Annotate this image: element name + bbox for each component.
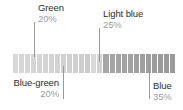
callout-blue-green-label: Blue-green xyxy=(4,78,59,89)
callout-blue-percent: 35% xyxy=(153,92,172,103)
callout-green-percent: 20% xyxy=(38,14,64,25)
leader-line-blue-green xyxy=(63,66,64,99)
leader-line-blue xyxy=(149,66,150,99)
callout-blue-green-percent: 20% xyxy=(4,89,59,100)
color-distribution-strip xyxy=(13,54,175,73)
callout-light-blue-percent: 25% xyxy=(103,20,143,31)
leader-line-light-blue xyxy=(99,28,100,62)
callout-blue-label: Blue xyxy=(153,81,172,92)
figure-canvas: Green 20% Light blue 25% Blue-green 20% … xyxy=(0,0,183,110)
callout-light-blue: Light blue 25% xyxy=(103,9,143,30)
leader-line-green xyxy=(34,22,35,57)
callout-light-blue-label: Light blue xyxy=(103,9,143,20)
strip-segment xyxy=(170,54,175,73)
callout-green: Green 20% xyxy=(38,3,64,24)
callout-blue: Blue 35% xyxy=(153,81,172,102)
callout-green-label: Green xyxy=(38,3,64,14)
callout-blue-green: Blue-green 20% xyxy=(4,78,59,99)
